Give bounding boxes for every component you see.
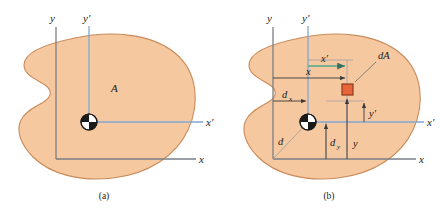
dim-label-x-prime: x′	[320, 53, 329, 64]
dim-label-y-prime: y′	[368, 108, 377, 119]
centroid-symbol-b	[300, 114, 316, 130]
caption-a: (a)	[99, 191, 110, 202]
dim-label-dy-base: d	[330, 137, 336, 148]
axis-label-x-prime-a: x′	[205, 116, 214, 128]
axis-label-x-b: x	[418, 153, 424, 165]
area-shape	[19, 34, 195, 179]
centroid-symbol-a	[81, 114, 97, 130]
dim-label-dx-base: d	[282, 89, 288, 100]
panel-b: y y′ x′ x x x′ d x d d y y y′ dA (b)	[222, 0, 445, 215]
element-da-square	[342, 84, 353, 95]
axis-label-y-prime-a: y′	[82, 12, 91, 24]
figure-container: y y′ x′ x A (a)	[0, 0, 445, 215]
dim-label-x: x	[305, 66, 311, 77]
area-label-a: A	[110, 82, 118, 94]
caption-b: (b)	[323, 191, 334, 202]
dim-label-d: d	[278, 136, 284, 147]
axis-label-x-a: x	[198, 153, 204, 165]
area-shape	[244, 34, 420, 179]
dim-label-y: y	[352, 138, 358, 149]
axis-label-y-b: y	[266, 12, 272, 24]
axis-label-x-prime-b: x′	[426, 116, 435, 128]
axis-label-y-a: y	[49, 12, 55, 24]
element-label-da: dA	[378, 50, 390, 61]
panel-a: y y′ x′ x A (a)	[0, 0, 222, 215]
axis-label-y-prime-b: y′	[301, 12, 310, 24]
